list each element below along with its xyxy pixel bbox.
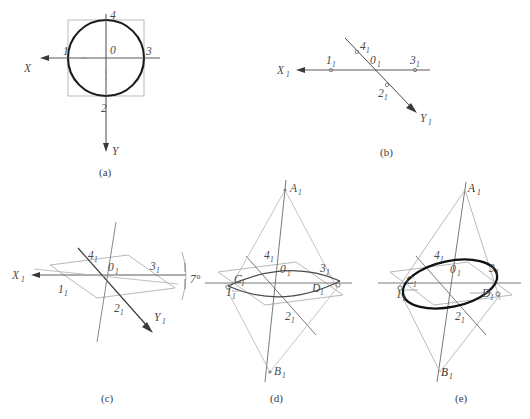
svg-text:3: 3 bbox=[409, 54, 416, 66]
panel-e-label-point-0: 0 1 bbox=[450, 263, 461, 278]
svg-text:1: 1 bbox=[413, 280, 417, 289]
svg-text:1: 1 bbox=[156, 266, 160, 275]
svg-text:1: 1 bbox=[332, 60, 336, 69]
svg-text:1: 1 bbox=[282, 371, 286, 380]
panel-e-label-c1: C 1 bbox=[406, 274, 417, 289]
svg-text:0: 0 bbox=[108, 261, 114, 273]
svg-text:1: 1 bbox=[396, 288, 402, 300]
svg-text:1: 1 bbox=[226, 286, 232, 298]
svg-text:Y: Y bbox=[420, 112, 428, 124]
svg-text:1: 1 bbox=[449, 372, 453, 381]
svg-text:1: 1 bbox=[21, 275, 25, 284]
panel-e-label-point-4: 4 1 bbox=[434, 249, 444, 264]
panel-a-caption: (a) bbox=[99, 166, 112, 179]
panel-b-label-point-4: 4 1 bbox=[360, 40, 370, 55]
svg-text:3: 3 bbox=[488, 262, 495, 274]
panel-b-label-point-2: 2 1 bbox=[378, 87, 388, 102]
svg-text:1: 1 bbox=[115, 267, 119, 276]
panel-a-x-arrowhead bbox=[40, 55, 49, 61]
svg-text:0: 0 bbox=[370, 54, 376, 66]
svg-text:1: 1 bbox=[162, 317, 166, 326]
panel-e-label-point-2: 2 1 bbox=[455, 310, 465, 325]
svg-text:B: B bbox=[274, 365, 281, 377]
panel-d-caption: (d) bbox=[270, 392, 283, 405]
panel-c-label-point-2: 2 1 bbox=[114, 302, 124, 317]
svg-text:1: 1 bbox=[477, 188, 481, 197]
panel-b-caption: (b) bbox=[380, 146, 393, 159]
svg-text:1: 1 bbox=[428, 118, 432, 127]
svg-text:Y: Y bbox=[154, 311, 162, 323]
panel-c-angle-label: 7° bbox=[190, 273, 201, 285]
svg-text:0: 0 bbox=[280, 263, 286, 275]
panel-d-center-d1 bbox=[336, 283, 340, 287]
panel-a-y-arrowhead bbox=[103, 143, 109, 152]
svg-text:1: 1 bbox=[287, 269, 291, 278]
panel-c-label-point-1: 1 1 bbox=[58, 283, 68, 298]
svg-text:1: 1 bbox=[326, 54, 332, 66]
panel-b-x1-arrowhead bbox=[296, 67, 305, 73]
panel-c-y1-arrowhead bbox=[142, 322, 153, 333]
svg-text:A: A bbox=[467, 182, 476, 194]
svg-text:3: 3 bbox=[149, 260, 156, 272]
svg-text:B: B bbox=[441, 366, 448, 378]
panel-b-label-y1: Y 1 bbox=[420, 112, 432, 127]
svg-text:1: 1 bbox=[232, 292, 236, 301]
panel-a-label-x: X bbox=[23, 62, 32, 74]
panel-d-label-point-0: 0 1 bbox=[280, 263, 291, 278]
svg-text:1: 1 bbox=[384, 93, 388, 102]
svg-text:1: 1 bbox=[416, 60, 420, 69]
svg-text:1: 1 bbox=[298, 188, 302, 197]
svg-text:A: A bbox=[289, 182, 298, 194]
panel-d-label-b1: B 1 bbox=[274, 365, 286, 380]
panel-d-label-point-2: 2 1 bbox=[285, 310, 295, 325]
panel-e-label-a1: A 1 bbox=[467, 182, 481, 197]
svg-text:1: 1 bbox=[440, 255, 444, 264]
panel-d-label-c1: C 1 bbox=[234, 273, 245, 288]
panel-a-label-0: 0 bbox=[110, 44, 116, 56]
svg-text:1: 1 bbox=[94, 255, 98, 264]
panel-a-label-4: 4 bbox=[110, 9, 116, 21]
panel-c-label-x1: X 1 bbox=[11, 269, 25, 284]
svg-text:1: 1 bbox=[461, 316, 465, 325]
svg-text:1: 1 bbox=[490, 293, 494, 302]
panel-a-label-1: 1 bbox=[63, 45, 69, 57]
panel-b-point-2 bbox=[385, 83, 388, 86]
panel-c-caption: (c) bbox=[101, 392, 114, 405]
svg-text:1: 1 bbox=[241, 279, 245, 288]
panel-b-label-point-1: 1 1 bbox=[326, 54, 336, 69]
panel-d-point-b1 bbox=[268, 370, 271, 373]
svg-text:1: 1 bbox=[495, 268, 499, 277]
panel-c-label-point-3: 3 1 bbox=[149, 260, 160, 275]
panel-d-label-d1: D 1 bbox=[311, 282, 324, 297]
panel-c-angle-arc bbox=[182, 252, 186, 300]
svg-text:1: 1 bbox=[58, 283, 64, 295]
panel-a-label-y: Y bbox=[112, 145, 120, 157]
svg-text:1: 1 bbox=[286, 70, 290, 79]
panel-b-y1-arrowhead bbox=[406, 103, 417, 113]
panel-c-x1-arrowhead bbox=[31, 272, 40, 278]
panel-e-label-b1: B 1 bbox=[441, 366, 453, 381]
svg-text:1: 1 bbox=[326, 268, 330, 277]
panel-c-label-point-0: 0 1 bbox=[108, 261, 119, 276]
svg-text:1: 1 bbox=[64, 289, 68, 298]
panel-e-label-point-3: 3 1 bbox=[488, 262, 499, 277]
panel-b: X 1 Y 1 1 1 3 1 4 1 2 1 bbox=[276, 38, 432, 159]
panel-d-label-a1: A 1 bbox=[289, 182, 302, 197]
svg-text:1: 1 bbox=[402, 294, 406, 303]
panel-b-label-x1: X 1 bbox=[276, 64, 290, 79]
panel-d-point-a1 bbox=[283, 188, 286, 191]
panel-c-label-y1: Y 1 bbox=[154, 311, 166, 326]
svg-text:1: 1 bbox=[377, 60, 381, 69]
panel-c: 7° X 1 Y 1 1 1 2 1 3 1 4 1 bbox=[11, 222, 201, 405]
panel-a-label-2: 2 bbox=[101, 102, 107, 114]
svg-text:0: 0 bbox=[450, 263, 456, 275]
panel-d-label-point-4: 4 1 bbox=[264, 249, 274, 264]
svg-text:X: X bbox=[276, 64, 285, 76]
panel-b-label-point-0: 0 1 bbox=[370, 54, 381, 69]
svg-text:1: 1 bbox=[291, 316, 295, 325]
panel-e-major-axis-a1-b1 bbox=[437, 182, 466, 382]
panel-d: A 1 B 1 C 1 D 1 1 1 2 1 bbox=[205, 180, 352, 405]
panel-d-ray-b1-right bbox=[270, 288, 337, 372]
panel-e: A 1 B 1 C 1 D 1 1 1 2 1 bbox=[378, 182, 521, 405]
panel-a-label-3: 3 bbox=[145, 45, 152, 57]
